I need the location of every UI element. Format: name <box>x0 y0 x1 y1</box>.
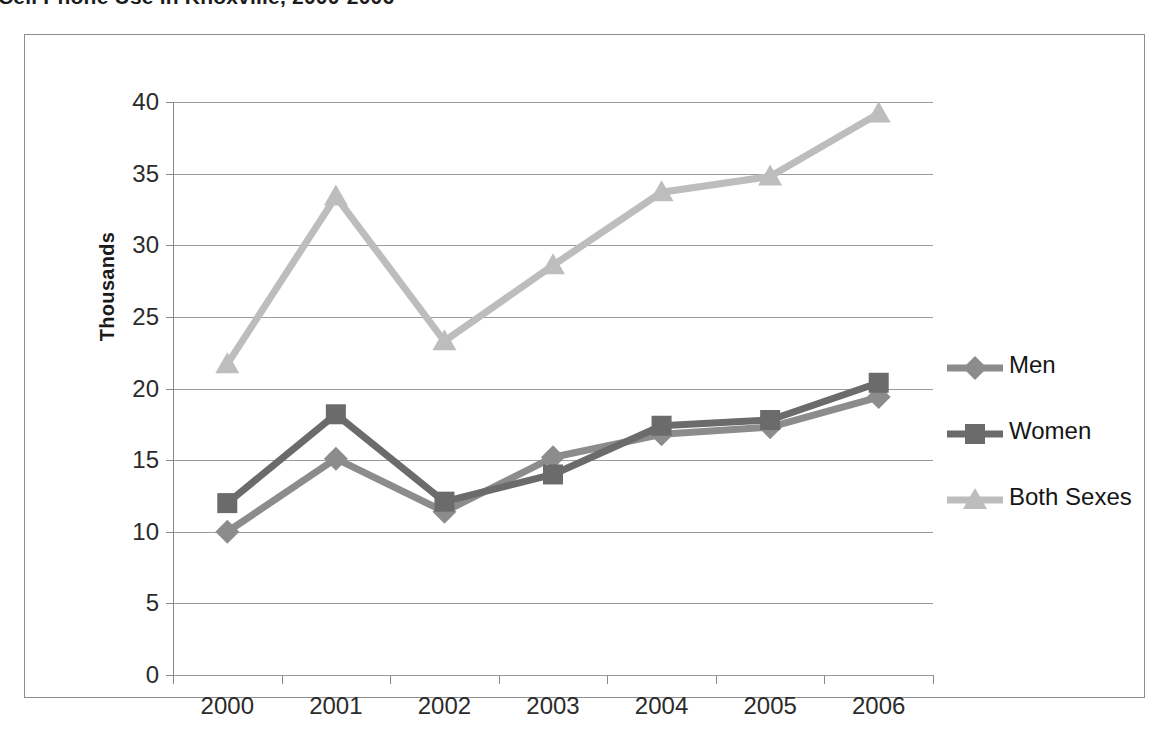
chart-legend: MenWomenBoth Sexes <box>945 353 1132 509</box>
y-axis-label: 0 <box>146 661 159 689</box>
series-line <box>227 383 878 503</box>
legend-label: Women <box>1009 419 1091 443</box>
plot-area: 0510152025303540200020012002200320042005… <box>173 102 933 675</box>
x-axis-tick <box>499 675 500 684</box>
series-men <box>215 385 890 544</box>
y-axis-label: 25 <box>132 303 159 331</box>
legend-label: Both Sexes <box>1009 485 1132 509</box>
y-axis-label: 35 <box>132 160 159 188</box>
y-axis-label: 20 <box>132 375 159 403</box>
x-axis-tick <box>607 675 608 684</box>
x-axis-label: 2004 <box>635 692 688 720</box>
legend-item-both-sexes[interactable]: Both Sexes <box>945 485 1132 509</box>
x-axis-tick <box>173 675 174 684</box>
page-title: Cell Phone Use in Knoxville, 2000-2006 <box>0 0 394 9</box>
x-axis-tick <box>390 675 391 684</box>
x-axis-label: 2000 <box>201 692 254 720</box>
series-both-sexes <box>215 101 890 373</box>
y-axis-title: Thousands <box>96 187 119 387</box>
square-marker-icon <box>326 404 346 424</box>
y-axis-label: 40 <box>132 88 159 116</box>
gridline <box>173 675 933 676</box>
chart-page: Cell Phone Use in Knoxville, 2000-2006 T… <box>0 0 1169 738</box>
x-axis-label: 2003 <box>526 692 579 720</box>
triangle-marker-icon <box>867 101 891 122</box>
square-marker-icon <box>760 410 780 430</box>
x-axis-label: 2002 <box>418 692 471 720</box>
square-marker-icon <box>965 424 985 444</box>
square-marker-icon <box>543 464 563 484</box>
x-axis-label: 2005 <box>743 692 796 720</box>
square-marker-icon <box>869 373 889 393</box>
chart-frame: Thousands 051015202530354020002001200220… <box>24 34 1145 698</box>
square-marker-icon <box>652 416 672 436</box>
square-marker-icon <box>945 421 1005 441</box>
y-axis-label: 30 <box>132 231 159 259</box>
x-axis-tick <box>282 675 283 684</box>
y-axis-label: 10 <box>132 518 159 546</box>
x-axis-label: 2006 <box>852 692 905 720</box>
series-line <box>227 113 878 364</box>
x-axis-tick <box>933 675 934 684</box>
square-marker-icon <box>217 493 237 513</box>
y-axis-label: 5 <box>146 589 159 617</box>
square-marker-icon <box>434 492 454 512</box>
legend-item-women[interactable]: Women <box>945 419 1132 443</box>
x-axis-tick <box>824 675 825 684</box>
series-layer <box>173 102 933 675</box>
diamond-marker-icon <box>963 356 987 380</box>
series-women <box>217 373 888 513</box>
diamond-marker-icon <box>945 355 1005 375</box>
legend-label: Men <box>1009 353 1056 377</box>
legend-item-men[interactable]: Men <box>945 353 1132 377</box>
x-axis-label: 2001 <box>309 692 362 720</box>
chart-title-strip: Cell Phone Use in Knoxville, 2000-2006 <box>0 0 1169 14</box>
y-axis-label: 15 <box>132 446 159 474</box>
triangle-marker-icon <box>945 487 1005 507</box>
x-axis-tick <box>716 675 717 684</box>
triangle-marker-icon <box>324 185 348 206</box>
